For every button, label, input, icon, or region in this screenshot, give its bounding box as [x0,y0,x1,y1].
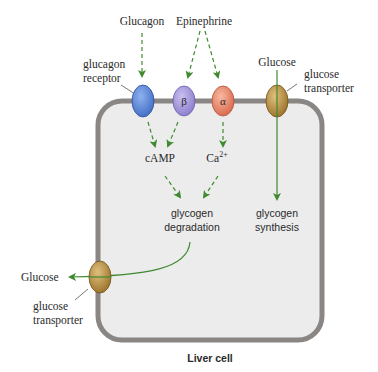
glucagon-receptor-label-line2: receptor [83,72,121,85]
caption-liver-cell: Liver cell [187,352,233,364]
glucose-transporter-top-label-line1: glucose [304,68,339,81]
alpha-symbol: α [220,95,226,107]
camp-label: cAMP [145,152,175,164]
glucose-transporter-bottom-label-line2: transporter [33,314,83,327]
epinephrine-beta-arrow [188,31,200,77]
glycogen-degradation-line2: degradation [164,221,220,233]
glycogen-degradation-line1: glycogen [171,207,213,219]
glucagon-label: Glucagon [120,15,165,28]
liver-cell-diagram: β α Glucagon Epinephrine Glucose glucago… [0,0,378,372]
glucagon-receptor [132,85,154,117]
glycogen-synthesis-line1: glycogen [256,207,298,219]
glucose-bottom-label: Glucose [21,271,59,283]
epinephrine-alpha-arrow [205,31,218,77]
glucose-top-label: Glucose [258,56,296,68]
glucagon-receptor-label-line1: glucagon [83,58,125,71]
glucose-transporter-bottom-label-line1: glucose [33,300,68,313]
beta-symbol: β [181,95,187,107]
glycogen-synthesis-line2: synthesis [255,221,299,233]
epinephrine-label: Epinephrine [176,15,232,28]
glucose-transporter-top-label-line2: transporter [304,82,354,95]
